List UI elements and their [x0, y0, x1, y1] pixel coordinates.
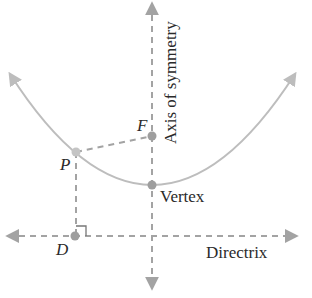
point-f: [148, 132, 157, 141]
vertex-label: Vertex: [160, 187, 205, 206]
directrix-label: Directrix: [206, 243, 268, 262]
parabola-diagram: Axis of symmetry F P Vertex D Directrix: [0, 0, 312, 298]
point-p-label: P: [59, 155, 70, 174]
axis-label: Axis of symmetry: [161, 21, 180, 144]
point-p: [72, 148, 81, 157]
focus-label: F: [136, 116, 148, 135]
segment-pf: [76, 136, 152, 152]
point-d-label: D: [55, 240, 69, 259]
point-vertex: [148, 181, 157, 190]
point-d: [71, 232, 80, 241]
